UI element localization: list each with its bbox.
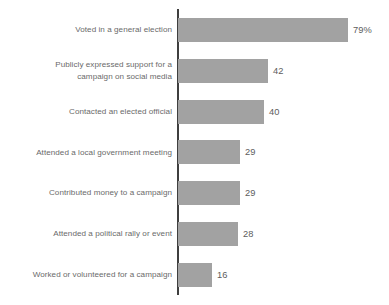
category-label: Voted in a general election (0, 18, 172, 42)
bar-value-label: 29 (245, 181, 256, 205)
category-label: Contacted an elected official (0, 100, 172, 124)
bar (178, 59, 268, 83)
category-label: Worked or volunteered for a campaign (0, 263, 172, 287)
bar-row: Attended a local government meeting 29 (0, 140, 389, 164)
category-label: Attended a local government meeting (0, 140, 172, 164)
bar-value-label: 29 (245, 140, 256, 164)
bar-row: Voted in a general election 79% (0, 18, 389, 42)
bar-value-label: 40 (269, 100, 280, 124)
bar-value-label: 42 (273, 59, 284, 83)
category-label: Attended a political rally or event (0, 222, 172, 246)
bar-row: Publicly expressed support for a campaig… (0, 59, 389, 83)
bar-chart: Voted in a general election 79% Publicly… (0, 0, 389, 305)
bar (178, 18, 348, 42)
bar (178, 263, 212, 287)
bar-value-label: 28 (243, 222, 254, 246)
bar (178, 181, 240, 205)
category-label: Contributed money to a campaign (0, 181, 172, 205)
bar-row: Attended a political rally or event 28 (0, 222, 389, 246)
category-label: Publicly expressed support for a campaig… (0, 59, 172, 83)
bar (178, 222, 238, 246)
bar-value-label: 79% (353, 18, 372, 42)
bar-value-label: 16 (217, 263, 228, 287)
bar (178, 140, 240, 164)
bar-row: Contributed money to a campaign 29 (0, 181, 389, 205)
bar (178, 100, 264, 124)
bar-row: Worked or volunteered for a campaign 16 (0, 263, 389, 287)
bar-row: Contacted an elected official 40 (0, 100, 389, 124)
